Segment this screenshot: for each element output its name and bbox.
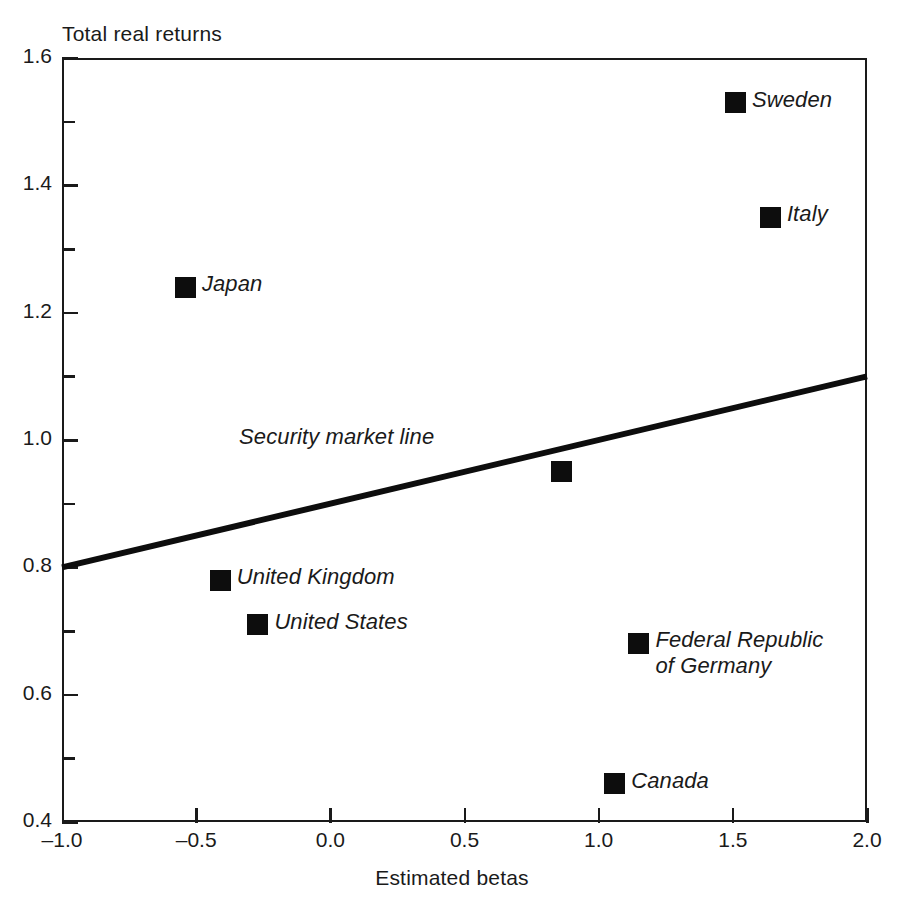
y-tick-major xyxy=(62,57,78,60)
plot-frame xyxy=(62,58,867,822)
y-axis-title: Total real returns xyxy=(62,22,222,46)
y-tick-major xyxy=(62,312,78,315)
data-point-label: Sweden xyxy=(752,87,832,113)
x-tick-label: 1.5 xyxy=(693,828,773,852)
x-tick-label: 0.5 xyxy=(425,828,505,852)
x-tick-label: 1.0 xyxy=(559,828,639,852)
data-point-label: Canada xyxy=(631,768,709,794)
x-tick xyxy=(732,808,735,823)
x-tick-label: 0.0 xyxy=(290,828,370,852)
data-point-label: Italy xyxy=(787,201,828,227)
y-tick-minor xyxy=(62,121,75,124)
y-tick-minor xyxy=(62,757,75,760)
data-point-marker[interactable] xyxy=(760,207,781,228)
y-tick-label: 1.4 xyxy=(0,171,52,195)
data-point-label: Japan xyxy=(202,271,262,297)
data-point-marker[interactable] xyxy=(247,614,268,635)
x-axis-title: Estimated betas xyxy=(0,866,904,890)
data-point-label: United States xyxy=(274,609,407,635)
x-tick xyxy=(598,808,601,823)
y-tick-label: 1.2 xyxy=(0,299,52,323)
data-point-marker-unlabeled[interactable] xyxy=(551,461,572,482)
x-tick-label: –0.5 xyxy=(156,828,236,852)
y-tick-minor xyxy=(62,503,75,506)
y-tick-minor xyxy=(62,375,75,378)
y-tick-label: 0.8 xyxy=(0,553,52,577)
y-tick-major xyxy=(62,184,78,187)
data-point-marker[interactable] xyxy=(725,92,746,113)
y-tick-major xyxy=(62,566,78,569)
x-tick xyxy=(195,808,198,823)
x-tick xyxy=(329,808,332,823)
y-tick-major xyxy=(62,439,78,442)
x-tick-label: 2.0 xyxy=(827,828,904,852)
security-market-line-label: Security market line xyxy=(239,424,434,450)
scatter-chart: Total real returns 1.61.41.21.00.80.60.4… xyxy=(0,0,904,903)
y-tick-minor xyxy=(62,630,75,633)
data-point-label: Federal Republicof Germany xyxy=(655,627,823,679)
y-tick-label: 1.0 xyxy=(0,426,52,450)
x-tick-label: –1.0 xyxy=(22,828,102,852)
y-tick-label: 1.6 xyxy=(0,44,52,68)
data-point-marker[interactable] xyxy=(604,773,625,794)
data-point-marker[interactable] xyxy=(175,277,196,298)
y-tick-label: 0.6 xyxy=(0,681,52,705)
data-point-label: United Kingdom xyxy=(237,564,395,590)
y-tick-major xyxy=(62,694,78,697)
y-tick-minor xyxy=(62,248,75,251)
data-point-marker[interactable] xyxy=(210,570,231,591)
y-tick-major xyxy=(62,821,78,824)
data-point-marker[interactable] xyxy=(628,633,649,654)
x-tick xyxy=(464,808,467,823)
x-tick xyxy=(866,808,869,823)
